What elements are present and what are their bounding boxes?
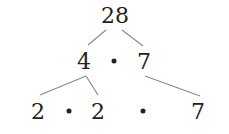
branch-4-2b [86, 76, 98, 95]
leaf-2a: 2 [31, 101, 45, 123]
multiply-dot [112, 59, 117, 64]
leaf-2b: 2 [91, 101, 105, 123]
multiply-dot [67, 109, 72, 114]
branch-4-2a [40, 76, 86, 95]
node-4: 4 [77, 51, 91, 73]
leaf-7: 7 [191, 101, 205, 123]
branch-28-4 [88, 30, 106, 45]
node-7: 7 [137, 51, 151, 73]
branch-7-7 [145, 76, 200, 96]
multiply-dot [141, 109, 146, 114]
root-node: 28 [101, 5, 129, 27]
branch-28-7 [122, 30, 143, 46]
